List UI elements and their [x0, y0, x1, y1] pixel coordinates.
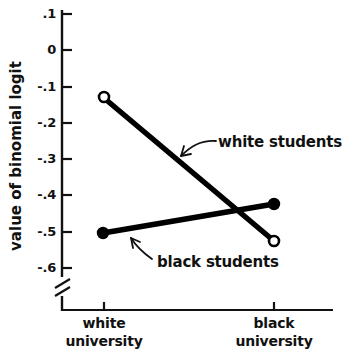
- x-tick-label-black-university-line1: black: [209, 314, 339, 332]
- x-tick-label-white-university-line2: university: [39, 332, 169, 350]
- data-point-black-students-black-university: [269, 199, 279, 209]
- y-tick-label-6: -.5: [22, 224, 56, 239]
- axis-break-mark-2: [55, 287, 70, 296]
- y-tick-label-2: -.1: [22, 79, 56, 94]
- annotation-arrow-white-students: [181, 141, 216, 156]
- axis-break-mark-1: [55, 279, 70, 288]
- annotation-arrow-black-students: [131, 238, 152, 259]
- y-tick-label-3: -.2: [22, 115, 56, 130]
- y-tick-label-4: -.3: [22, 151, 56, 166]
- series-annotation-white-students: white students: [218, 133, 342, 151]
- x-axis-ticks: [104, 302, 274, 310]
- x-tick-label-black-university-line2: university: [209, 332, 339, 350]
- y-tick-label-7: -.6: [22, 260, 56, 275]
- data-point-white-students-white-university: [99, 92, 109, 102]
- series-annotation-black-students: black students: [157, 253, 279, 271]
- y-tick-label-5: -.4: [22, 187, 56, 202]
- y-axis-ticks: [62, 14, 72, 268]
- y-tick-label-0: .1: [22, 6, 56, 21]
- y-tick-label-1: 0: [22, 42, 56, 57]
- x-tick-label-white-university-line1: white: [39, 314, 169, 332]
- data-point-black-students-white-university: [98, 228, 108, 238]
- data-point-white-students-black-university: [269, 236, 279, 246]
